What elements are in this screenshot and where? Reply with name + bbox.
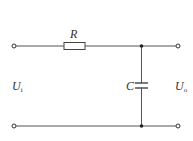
input-terminal-bottom [12,124,16,128]
resistor-label: R [70,28,77,40]
junction-dot-top [140,44,144,48]
output-voltage-label: Uo [175,80,187,96]
input-voltage-symbol: U [12,79,21,93]
output-voltage-symbol: U [175,79,184,93]
input-voltage-subscript: i [21,86,23,94]
input-voltage-label: Ui [12,80,23,96]
output-terminal-bottom [176,124,180,128]
output-terminal-top [176,44,180,48]
input-terminal-top [12,44,16,48]
capacitor-label: C [126,80,134,92]
junction-dot-bottom [140,124,144,128]
circuit-diagram [0,0,193,141]
output-voltage-subscript: o [184,86,188,94]
resistor [64,43,85,50]
